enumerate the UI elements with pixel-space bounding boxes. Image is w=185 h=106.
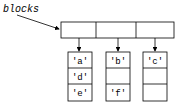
cell-value: 'c' <box>147 57 163 67</box>
cell-value: 'b' <box>110 57 126 67</box>
label-arrow <box>17 15 59 29</box>
column-block-1: 'a' 'd' 'e' <box>68 52 92 101</box>
column-block-2: 'b' 'f' <box>106 52 130 101</box>
blocks-label: blocks <box>3 4 39 15</box>
cell-value: 'f' <box>110 89 126 99</box>
column-block-3: 'c' <box>143 52 167 101</box>
blocks-diagram: blocks 'a' 'd' 'e' 'b' 'f' 'c' <box>0 0 185 106</box>
cell-value: 'd' <box>72 73 88 83</box>
cell-value: 'a' <box>72 57 88 67</box>
cell-value: 'e' <box>72 89 88 99</box>
top-row-array <box>61 22 174 38</box>
